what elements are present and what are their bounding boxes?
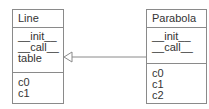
class-line[interactable]: Line __init__ __call__ table c0 c1 — [12, 9, 64, 104]
class-line-name: Line — [13, 10, 63, 28]
method: __call__ — [152, 42, 206, 53]
class-line-methods: __init__ __call__ table — [13, 28, 63, 73]
class-parabola-attributes: c0 c1 c2 — [147, 64, 206, 101]
class-parabola-name: Parabola — [147, 10, 206, 28]
method: table — [18, 53, 63, 64]
attribute: c2 — [152, 90, 206, 101]
class-line-attributes: c0 c1 — [13, 73, 63, 99]
class-parabola[interactable]: Parabola __init__ __call__ c0 c1 c2 — [146, 9, 207, 104]
class-name: Parabola — [152, 13, 206, 24]
class-parabola-methods: __init__ __call__ — [147, 28, 206, 64]
attribute: c1 — [18, 88, 63, 99]
class-name: Line — [18, 13, 63, 24]
hollow-triangle-icon — [64, 52, 72, 62]
